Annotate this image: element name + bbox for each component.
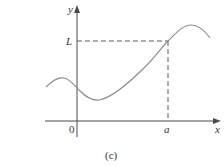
origin-label: 0 <box>69 123 75 135</box>
y-axis-arrow-icon <box>74 5 80 13</box>
x-axis-label: x <box>214 123 220 135</box>
figure-caption: (c) <box>105 149 118 162</box>
graph-figure: y x 0 L a (c) <box>0 0 224 166</box>
y-axis-label: y <box>67 3 73 15</box>
a-label: a <box>164 123 170 135</box>
L-label: L <box>65 35 72 47</box>
